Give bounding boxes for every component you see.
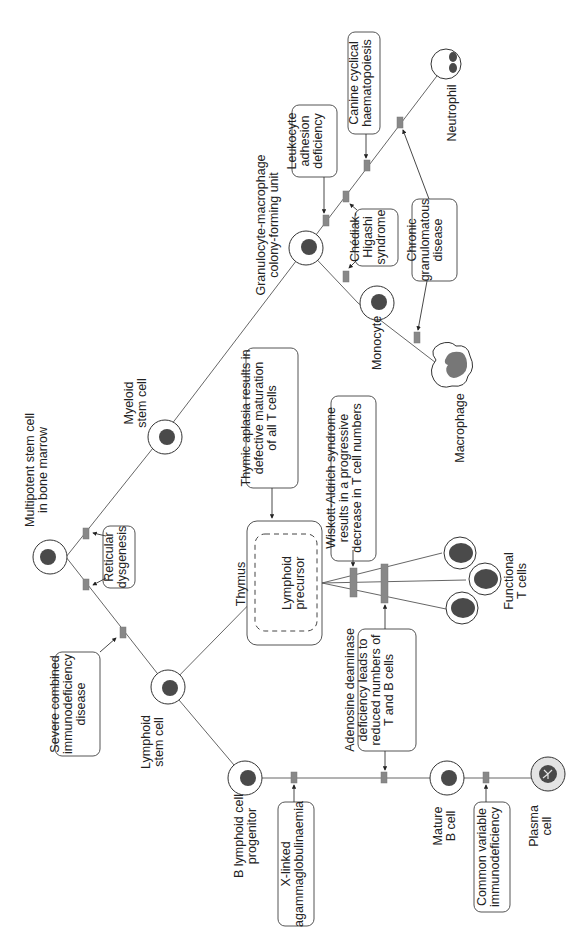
label-myeloid: Myeloidstem cell	[122, 378, 149, 427]
label-line: Common variable	[475, 808, 489, 906]
label-line: Mature	[431, 807, 445, 846]
label-line: Multipotent stem cell	[23, 413, 37, 527]
label-reticular: Reticulardysgenesis	[102, 526, 129, 589]
label-lymphoid: Lymphoidstem cell	[139, 715, 166, 769]
label-line: X-linked	[279, 841, 293, 886]
label-line: T cells	[515, 563, 529, 599]
block-neutrophil	[397, 117, 403, 128]
block-wiskott	[350, 568, 357, 597]
label-gm-cfu: Granulocyte-macrophagecolony-forming uni…	[254, 154, 281, 295]
block-reticular-lymphoid	[83, 579, 89, 590]
label-line: Granulocyte-macrophage	[254, 154, 268, 295]
label-line: deficiency leads to	[356, 639, 370, 742]
block-canine	[364, 160, 370, 171]
label-line: stem cell	[152, 717, 166, 766]
label-line: Macrophage	[453, 393, 467, 463]
label-line: B lymphoid cell	[232, 794, 246, 878]
cell-neutrophil	[431, 49, 461, 79]
label-line: of all T cells	[265, 385, 279, 451]
edge-thymus-tcell-2	[322, 580, 466, 583]
label-wiskott: Wiskott-Aldrich syndromeresults in a pro…	[324, 403, 364, 553]
block-ada-t	[381, 564, 388, 603]
label-monocyte: Monocyte	[370, 316, 384, 370]
label-line: immunodeficiency	[61, 653, 75, 754]
cell-monocyte	[360, 286, 394, 320]
immunodeficiency-lineage-diagram: Multipotent stem cellin bone marrow Myel…	[0, 0, 579, 949]
cell-lymphoid	[151, 670, 185, 704]
label-line: Myeloid	[122, 381, 136, 424]
label-lymphoid-precursor: Lymphoidprecursor	[280, 556, 307, 610]
label-line: dysgenesis	[115, 526, 129, 589]
cell-b-progenitor	[228, 761, 262, 795]
label-b-progenitor: B lymphoid cellprogenitor	[232, 794, 259, 878]
block-lad	[323, 215, 329, 226]
block-xla	[291, 772, 297, 783]
label-line: B cell	[444, 811, 458, 842]
label-plasma: Plasmacell	[527, 805, 554, 847]
label-line: Adenosine deaminase	[343, 628, 357, 752]
label-line: deficiency	[311, 112, 325, 168]
edge-lymphoid-bprogenitor	[168, 687, 245, 778]
label-line: reduced numbers of	[369, 634, 383, 746]
label-line: stem cell	[135, 378, 149, 427]
label-canine: Canine cyclicalhaematopoiesis	[347, 39, 374, 127]
label-line: syndrome	[374, 210, 388, 265]
label-multipotent: Multipotent stem cellin bone marrow	[23, 413, 50, 527]
label-line: Thymic aplasia results in	[239, 350, 253, 487]
label-line: immunodeficiency	[488, 806, 502, 907]
label-line: Functional	[502, 552, 516, 610]
label-line: defective maturation	[252, 362, 266, 475]
label-line: Leukocyte	[285, 112, 299, 169]
label-line: T and B cells	[382, 654, 396, 726]
block-cvid	[483, 772, 489, 783]
label-line: Lymphoid	[139, 715, 153, 769]
label-cvid: Common variableimmunodeficiency	[475, 806, 502, 907]
label-line: Wiskott-Aldrich syndrome	[324, 407, 338, 549]
cell-tcell-3	[446, 592, 478, 624]
block-chediak-upper	[343, 191, 349, 202]
cell-tcell-1	[444, 537, 476, 569]
cell-multipotent	[33, 540, 67, 574]
label-line: progenitor	[245, 808, 259, 864]
label-line: adhesion	[298, 116, 312, 167]
label-line: cell	[540, 817, 554, 836]
label-line: in bone marrow	[36, 426, 50, 513]
cell-tcell-2	[469, 563, 501, 595]
label-line: granulomatous	[418, 199, 432, 282]
label-line: Severe combined	[48, 655, 62, 752]
cell-gm-cfu	[289, 231, 323, 265]
label-line: Neutrophil	[445, 85, 459, 142]
label-line: results in a progressive	[337, 414, 351, 543]
block-chediak-lower	[343, 271, 349, 282]
label-line: agammaglobulinaemia	[292, 801, 306, 927]
block-cgd	[414, 332, 420, 343]
label-mature-b: MatureB cell	[431, 807, 458, 846]
cell-plasma	[531, 757, 565, 791]
label-line: precursor	[293, 557, 307, 610]
label-neutrophil: Neutrophil	[445, 85, 459, 142]
block-reticular-myeloid	[83, 528, 89, 539]
label-line: disease	[74, 682, 88, 725]
label-chediak: Chédiak-Higashisyndrome	[348, 210, 388, 265]
label-line: Reticular	[102, 532, 116, 581]
block-ada-b	[381, 772, 387, 783]
label-line: Chédiak-	[348, 212, 362, 262]
label-thymus: Thymus	[234, 562, 248, 606]
cell-myeloid	[148, 420, 182, 454]
label-lad: Leukocyteadhesiondeficiency	[285, 112, 325, 169]
label-line: disease	[431, 218, 445, 261]
cell-mature-b	[430, 761, 464, 795]
label-line: colony-forming unit	[267, 172, 281, 278]
label-line: Monocyte	[370, 316, 384, 370]
cell-macrophage	[431, 342, 472, 387]
label-line: Lymphoid	[280, 556, 294, 610]
block-scid	[120, 627, 126, 638]
label-line: Plasma	[527, 805, 541, 847]
label-line: Chronic	[405, 218, 419, 261]
label-line: haematopoiesis	[360, 39, 374, 127]
label-line: Thymus	[234, 562, 248, 606]
label-functional-t: FunctionalT cells	[502, 552, 529, 610]
label-macrophage: Macrophage	[453, 393, 467, 463]
label-line: decrease in T cell numbers	[350, 403, 364, 553]
label-line: Higashi	[361, 216, 375, 258]
